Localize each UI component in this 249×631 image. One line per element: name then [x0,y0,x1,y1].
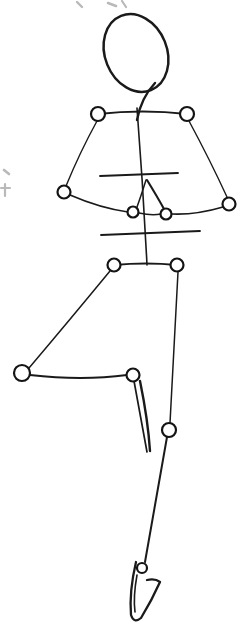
paper-background [0,0,249,631]
joint-ankle-right [137,563,147,573]
joint-knee-right [162,423,176,437]
joint-elbow-right [223,198,236,211]
joint-hand-left [128,207,139,218]
joint-hip-left [108,259,121,272]
joint-foot-left [14,365,30,381]
joint-elbow-left [58,186,71,199]
joint-shoulder-right [180,107,194,121]
joint-knee-left [127,369,140,382]
figure-armature-sketch [0,0,249,631]
joint-shoulder-left [91,107,105,121]
joint-hip-right [171,259,184,272]
joint-hand-right [161,209,172,220]
